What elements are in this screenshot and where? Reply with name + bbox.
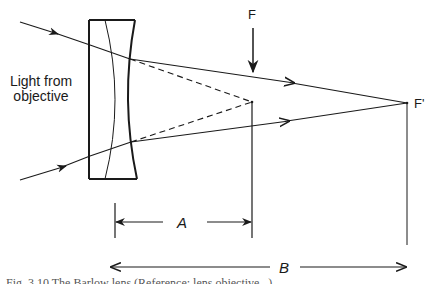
focus-point-f-prime (406, 102, 409, 105)
figure-caption: Fig. 3.10 The Barlow lens (Reference: le… (6, 276, 433, 284)
focus-f-prime-label: F' (414, 97, 424, 110)
source-label: Light from objective (8, 74, 74, 104)
ray-diagram-canvas (0, 0, 433, 284)
source-label-line1: Light from (8, 74, 74, 89)
dimension-b-label: B (279, 260, 289, 275)
focus-point-f (251, 101, 254, 104)
refracted-rays (130, 59, 407, 142)
source-label-line2: objective (8, 89, 74, 104)
barlow-lens-diagram: Light from objective F F' A B Fig. 3.10 … (0, 0, 433, 284)
focus-f-label: F (248, 8, 256, 21)
dimension-a-label: A (177, 215, 187, 230)
barlow-lens (89, 20, 137, 179)
virtual-rays (130, 59, 252, 142)
